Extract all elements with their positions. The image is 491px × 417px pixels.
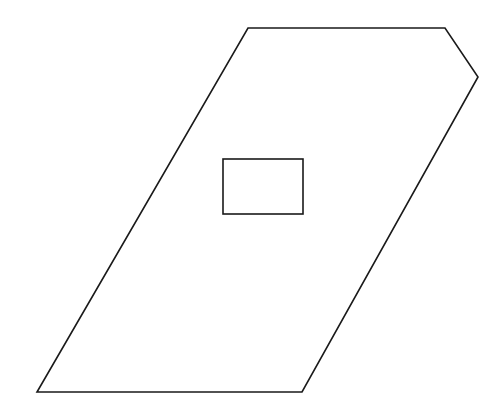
inner-rectangle-shape: [223, 159, 303, 214]
diagram-canvas: [0, 0, 491, 417]
outer-pentagon-shape: [37, 28, 478, 392]
